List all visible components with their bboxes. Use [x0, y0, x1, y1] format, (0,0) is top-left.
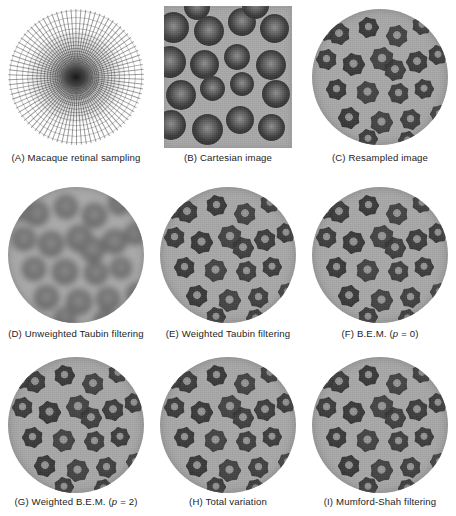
panel-image-F — [310, 184, 450, 326]
figure-panel-grid: (A) Macaque retinal sampling (B) Cartesi… — [0, 0, 456, 516]
caption-letter-H: (H) — [189, 496, 203, 507]
figure-row-3: (G) Weighted B.E.M. (p = 2) (H) Total va… — [0, 348, 456, 516]
log-polar-mesh — [8, 9, 144, 145]
caption-letter-F: (F) — [341, 328, 354, 339]
caption-letter-E: (E) — [166, 328, 179, 339]
weighted-taubin-disc — [160, 187, 296, 323]
caption-text-E: Weighted Taubin filtering — [182, 328, 290, 339]
caption-B: (B) Cartesian image — [152, 152, 304, 163]
panel-image-A — [6, 6, 146, 148]
blood-cell-field — [8, 187, 144, 323]
caption-letter-G: (G) — [14, 496, 28, 507]
figure-row-2: (D) Unweighted Taubin filtering (E) Weig… — [0, 178, 456, 348]
cartesian-image-square — [164, 6, 292, 148]
caption-text-C: Resampled image — [349, 152, 429, 163]
caption-text-D: Unweighted Taubin filtering — [25, 328, 144, 339]
caption-text-H: Total variation — [205, 496, 266, 507]
caption-text-G: Weighted B.E.M. ( — [32, 496, 112, 507]
panel-cell-E: (E) Weighted Taubin filtering — [152, 178, 304, 328]
panel-image-H — [158, 354, 298, 496]
panel-cell-G: (G) Weighted B.E.M. (p = 2) — [0, 348, 152, 498]
caption-letter-C: (C) — [332, 152, 346, 163]
blood-cell-field — [312, 357, 448, 493]
blood-cell-field — [160, 187, 296, 323]
panel-cell-B: (B) Cartesian image — [152, 0, 304, 150]
blood-cell-field — [312, 9, 448, 145]
mumford-shah-disc — [312, 357, 448, 493]
caption-E: (E) Weighted Taubin filtering — [152, 328, 304, 339]
caption-letter-B: (B) — [184, 152, 197, 163]
caption-text-F: B.E.M. ( — [357, 328, 393, 339]
panel-cell-C: (C) Resampled image — [304, 0, 456, 150]
figure-row-1: (A) Macaque retinal sampling (B) Cartesi… — [0, 0, 456, 176]
bem-p0-disc — [312, 187, 448, 323]
blood-cell-field — [164, 6, 292, 148]
caption-tail-F: = 0) — [398, 328, 418, 339]
caption-text-B: Cartesian image — [200, 152, 272, 163]
caption-D: (D) Unweighted Taubin filtering — [0, 328, 152, 339]
panel-image-I — [310, 354, 450, 496]
caption-F: (F) B.E.M. (p = 0) — [304, 328, 456, 339]
panel-cell-I: (I) Mumford-Shah filtering — [304, 348, 456, 498]
panel-cell-A: (A) Macaque retinal sampling — [0, 0, 152, 150]
panel-cell-H: (H) Total variation — [152, 348, 304, 498]
resampled-image-disc — [312, 9, 448, 145]
caption-G: (G) Weighted B.E.M. (p = 2) — [0, 496, 152, 507]
panel-image-B — [164, 6, 292, 148]
caption-A: (A) Macaque retinal sampling — [0, 152, 152, 163]
caption-tail-G: = 2) — [117, 496, 137, 507]
total-variation-disc — [160, 357, 296, 493]
panel-cell-D: (D) Unweighted Taubin filtering — [0, 178, 152, 328]
retinal-sampling-disc — [8, 9, 144, 145]
caption-I: (I) Mumford-Shah filtering — [304, 496, 456, 507]
caption-text-A: Macaque retinal sampling — [28, 152, 141, 163]
caption-H: (H) Total variation — [152, 496, 304, 507]
caption-C: (C) Resampled image — [304, 152, 456, 163]
caption-letter-A: (A) — [12, 152, 25, 163]
panel-image-C — [310, 6, 450, 148]
unweighted-taubin-disc — [8, 187, 144, 323]
weighted-bem-p2-disc — [8, 357, 144, 493]
caption-letter-I: (I) — [324, 496, 334, 507]
caption-letter-D: (D) — [8, 328, 22, 339]
panel-image-G — [6, 354, 146, 496]
blood-cell-field — [160, 357, 296, 493]
panel-image-D — [6, 184, 146, 326]
blood-cell-field — [8, 357, 144, 493]
panel-image-E — [158, 184, 298, 326]
panel-cell-F: (F) B.E.M. (p = 0) — [304, 178, 456, 328]
caption-text-I: Mumford-Shah filtering — [336, 496, 436, 507]
blood-cell-field — [312, 187, 448, 323]
